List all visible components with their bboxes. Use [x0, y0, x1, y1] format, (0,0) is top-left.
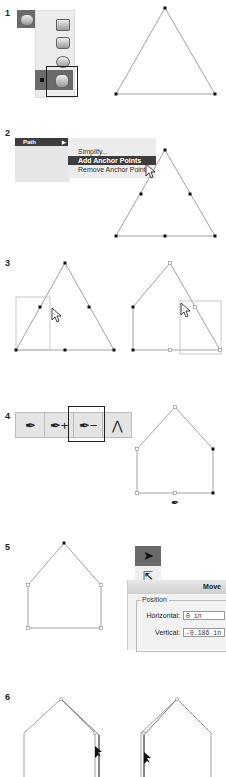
cursor-icon: [146, 164, 155, 178]
house-shape: [24, 699, 95, 777]
triangle-shape-with-points: [116, 150, 215, 236]
marquee-selection: [16, 297, 50, 350]
triangle-shape: [116, 8, 215, 94]
cursor-icon: [181, 303, 190, 317]
cursor-icon: [52, 308, 61, 322]
cursor-icon: [144, 752, 151, 764]
partial-house-shape: [133, 263, 220, 350]
artwork-canvas: ✒: [0, 0, 226, 777]
house-shape: [28, 543, 101, 628]
house-shape: [141, 699, 211, 777]
triangle-shape: [16, 263, 114, 350]
house-shape: [137, 407, 213, 493]
pen-minus-cursor-icon: ✒: [171, 497, 179, 508]
